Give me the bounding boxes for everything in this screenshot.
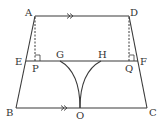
label-F: F <box>140 56 147 67</box>
geometry-diagram: A D E F P Q G H B C O <box>0 0 163 123</box>
label-H: H <box>98 49 107 60</box>
label-A: A <box>24 7 33 18</box>
label-O: O <box>76 110 84 121</box>
arc-HO <box>80 61 101 108</box>
label-E: E <box>15 56 22 67</box>
label-B: B <box>6 107 13 118</box>
label-P: P <box>32 63 39 74</box>
arc-GO <box>60 61 80 108</box>
label-Q: Q <box>125 63 133 74</box>
right-angle-mark-Q <box>129 55 134 61</box>
label-D: D <box>130 7 138 18</box>
label-G: G <box>56 49 64 60</box>
right-angle-mark-P <box>35 55 40 61</box>
label-C: C <box>149 107 157 118</box>
